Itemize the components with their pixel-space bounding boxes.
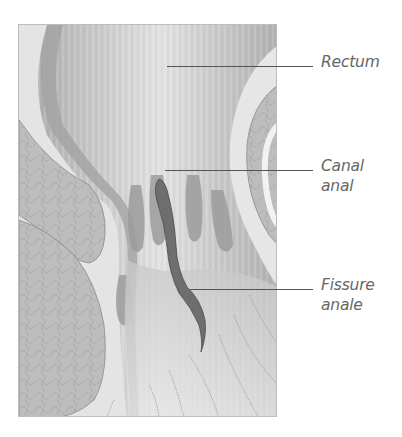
label-fissure-anale-line-2: anale <box>321 295 375 315</box>
anatomy-illustration <box>18 24 277 417</box>
leader-line-rectum <box>167 66 313 67</box>
leader-line-canal-anal <box>165 170 313 171</box>
caption-cutoff <box>30 430 370 437</box>
label-rectum: Rectum <box>321 52 380 72</box>
label-fissure-anale: Fissure anale <box>321 275 375 315</box>
label-rectum-line-1: Rectum <box>321 52 380 72</box>
label-fissure-anale-line-1: Fissure <box>321 275 375 295</box>
label-canal-anal: Canal anal <box>321 156 364 196</box>
label-canal-anal-line-1: Canal <box>321 156 364 176</box>
label-canal-anal-line-2: anal <box>321 176 364 196</box>
leader-line-fissure-anale <box>190 289 313 290</box>
illustration-drawing <box>19 25 277 417</box>
